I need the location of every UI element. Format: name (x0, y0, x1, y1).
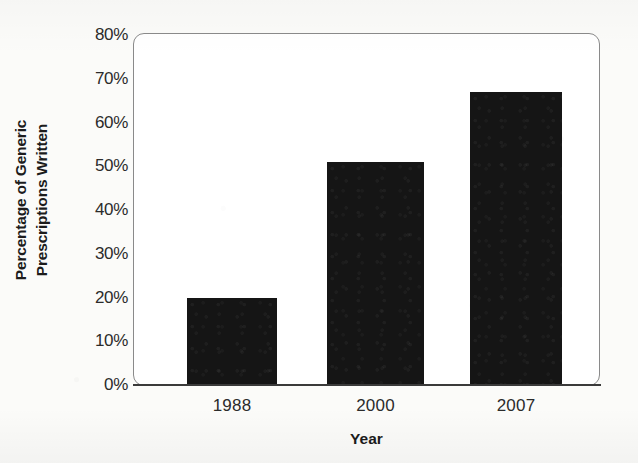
bar-2000 (327, 162, 424, 385)
y-tick-label: 0% (66, 375, 128, 395)
x-axis-title: Year (133, 430, 600, 448)
bar-chart-figure: Percentage of Generic Prescriptions Writ… (0, 0, 638, 463)
x-tick-label: 2000 (327, 396, 424, 416)
bar-1988 (187, 298, 277, 386)
y-axis-tick-labels: 0%10%20%30%40%50%60%70%80% (66, 0, 128, 463)
y-tick-label: 60% (66, 113, 128, 133)
y-tick-label: 80% (66, 25, 128, 45)
y-tick-label: 40% (66, 200, 128, 220)
x-tick-label: 2007 (470, 396, 562, 416)
y-tick-label: 20% (66, 288, 128, 308)
y-tick-label: 70% (66, 69, 128, 89)
y-axis-title: Percentage of Generic Prescriptions Writ… (0, 0, 62, 400)
y-axis-title-line-1: Percentage of Generic (10, 120, 31, 280)
y-tick-label: 50% (66, 156, 128, 176)
y-axis-title-text: Percentage of Generic Prescriptions Writ… (10, 120, 52, 280)
x-tick-label: 1988 (187, 396, 277, 416)
x-axis-baseline (133, 384, 601, 386)
y-tick-label: 30% (66, 244, 128, 264)
y-axis-title-line-2: Prescriptions Written (31, 120, 52, 280)
bar-2007 (470, 92, 562, 385)
y-tick-label: 10% (66, 331, 128, 351)
